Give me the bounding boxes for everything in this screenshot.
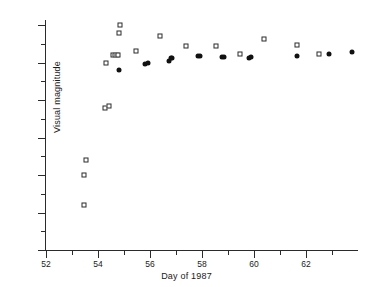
y-tick-major bbox=[38, 25, 46, 26]
y-tick-major bbox=[38, 63, 46, 64]
x-tick-major bbox=[254, 251, 255, 258]
data-point-open-squares bbox=[116, 30, 121, 35]
y-tick-major bbox=[38, 138, 46, 139]
x-tick-minor bbox=[332, 251, 333, 255]
x-tick-major bbox=[98, 251, 99, 258]
x-tick-major bbox=[46, 251, 47, 258]
data-point-filled-circles bbox=[145, 61, 150, 66]
data-point-filled-circles bbox=[222, 54, 227, 59]
data-point-open-squares bbox=[133, 48, 138, 53]
data-point-open-squares bbox=[83, 158, 88, 163]
x-tick-minor bbox=[280, 251, 281, 255]
y-axis-title: Visual magnitude bbox=[52, 37, 62, 157]
data-point-filled-circles bbox=[294, 53, 299, 58]
data-point-filled-circles bbox=[249, 55, 254, 60]
x-tick-minor bbox=[176, 251, 177, 255]
y-tick-major bbox=[38, 213, 46, 214]
data-point-filled-circles bbox=[349, 50, 354, 55]
data-point-open-squares bbox=[214, 44, 219, 49]
x-tick-minor bbox=[228, 251, 229, 255]
x-tick-major bbox=[150, 251, 151, 258]
data-point-open-squares bbox=[237, 51, 242, 56]
data-point-open-squares bbox=[317, 51, 322, 56]
data-point-filled-circles bbox=[197, 53, 202, 58]
x-tick-label: 60 bbox=[249, 260, 259, 269]
data-point-open-squares bbox=[116, 53, 121, 58]
data-point-filled-circles bbox=[327, 52, 332, 57]
x-tick-label: 62 bbox=[301, 260, 311, 269]
data-point-open-squares bbox=[81, 203, 86, 208]
data-point-open-squares bbox=[184, 44, 189, 49]
data-point-filled-circles bbox=[169, 56, 174, 61]
y-tick-major bbox=[38, 100, 46, 101]
x-tick-label: 58 bbox=[197, 260, 207, 269]
x-tick-label: 52 bbox=[41, 260, 51, 269]
data-point-open-squares bbox=[106, 104, 111, 109]
x-axis-title: Day of 1987 bbox=[0, 271, 373, 281]
data-point-open-squares bbox=[82, 173, 87, 178]
y-tick-major bbox=[38, 175, 46, 176]
light-curve-figure: 44.555.566.57 525456586062 Visual magnit… bbox=[0, 0, 373, 287]
x-tick-minor bbox=[124, 251, 125, 255]
x-tick-label: 54 bbox=[93, 260, 103, 269]
data-point-open-squares bbox=[262, 37, 267, 42]
data-point-open-squares bbox=[103, 60, 108, 65]
data-point-open-squares bbox=[158, 34, 163, 39]
x-tick-major bbox=[202, 251, 203, 258]
data-point-open-squares bbox=[118, 23, 123, 28]
data-point-filled-circles bbox=[116, 68, 121, 73]
x-tick-label: 56 bbox=[145, 260, 155, 269]
x-tick-minor bbox=[72, 251, 73, 255]
data-point-open-squares bbox=[294, 43, 299, 48]
x-tick-major bbox=[306, 251, 307, 258]
y-tick-major bbox=[38, 250, 46, 251]
